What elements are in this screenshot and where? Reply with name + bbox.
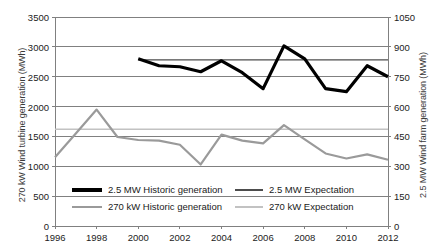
legend-label: 270 kW Historic generation [108,201,222,212]
chart-container: 270 kW Wind turbine generation (MWh) 2.5… [0,0,443,249]
legend-label: 270 kW Expectation [269,201,354,212]
legend-swatch [72,206,102,208]
legend-label: 2.5 MW Historic generation [108,184,223,195]
legend-swatch [235,189,263,191]
legend-swatch [235,206,263,208]
data-series-group [55,46,388,165]
legend-label: 2.5 MW Expectation [269,184,354,195]
plot-frame [52,17,391,229]
legend-swatch [72,188,102,191]
